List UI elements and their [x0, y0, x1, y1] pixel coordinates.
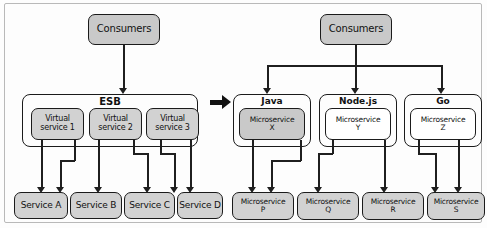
microservice-s[interactable]: Microservice S — [427, 192, 485, 220]
connector-left-consumers-to-esb — [123, 45, 125, 89]
connector-z-to-s — [458, 140, 460, 188]
microservice-p[interactable]: Microservice P — [232, 192, 294, 220]
connector-vs3-out2-v2 — [174, 153, 176, 188]
connector-vs2-out2-h — [133, 153, 148, 155]
connector-vs1-to-service-a — [41, 140, 43, 188]
connector-y-out1-v2 — [318, 153, 320, 188]
microservice-z[interactable]: Microservice Z — [410, 108, 476, 140]
connector-vs3-out2-h — [160, 153, 175, 155]
connector-vs2-out2-v2 — [147, 153, 149, 188]
diagram-canvas: Consumers ESB Virtual service 1 Virtual … — [0, 0, 487, 228]
connector-z-out2-v2 — [435, 153, 437, 188]
connector-y-to-r — [384, 140, 386, 188]
service-c[interactable]: Service C — [124, 192, 175, 219]
connector-vs1-out2-h — [60, 160, 75, 162]
service-a[interactable]: Service A — [14, 192, 68, 219]
connector-z-out2-v1 — [418, 140, 420, 154]
transition-arrow-icon — [210, 96, 232, 110]
left-consumers-box[interactable]: Consumers — [88, 14, 160, 45]
runtime-label-go: Go — [404, 96, 482, 106]
service-b[interactable]: Service B — [70, 192, 122, 219]
esb-label: ESB — [22, 96, 198, 107]
connector-x-to-p — [252, 140, 254, 188]
connector-x-out2-v1 — [300, 140, 302, 161]
connector-vs1-out2-v1 — [74, 140, 76, 161]
microservice-q[interactable]: Microservice Q — [297, 192, 359, 220]
connector-bus-to-go — [441, 65, 443, 89]
runtime-label-java: Java — [233, 96, 311, 106]
connector-right-consumers-stem — [355, 45, 357, 66]
virtual-service-3[interactable]: Virtual service 3 — [146, 108, 199, 140]
connector-x-out2-v2 — [271, 160, 273, 188]
connector-bus-to-node — [355, 65, 357, 89]
connector-y-out1-v1 — [332, 140, 334, 154]
virtual-service-1[interactable]: Virtual service 1 — [31, 108, 84, 140]
connector-vs3-to-service-d — [190, 140, 192, 188]
microservice-r[interactable]: Microservice R — [362, 192, 424, 220]
connector-vs3-out2-v1 — [160, 140, 162, 154]
service-d[interactable]: Service D — [177, 192, 223, 219]
right-consumers-box[interactable]: Consumers — [320, 14, 392, 45]
connector-vs2-out2-v1 — [133, 140, 135, 154]
connector-bus-to-java — [267, 65, 269, 89]
connector-vs1-out2-v2 — [60, 160, 62, 188]
microservice-y[interactable]: Microservice Y — [325, 108, 391, 140]
connector-x-out2-h — [271, 160, 301, 162]
virtual-service-2[interactable]: Virtual service 2 — [89, 108, 142, 140]
connector-y-out1-h — [318, 153, 333, 155]
microservice-x[interactable]: Microservice X — [239, 108, 305, 140]
connector-z-out2-h — [418, 153, 436, 155]
runtime-label-nodejs: Node.js — [319, 96, 397, 106]
connector-vs2-to-service-b — [98, 140, 100, 188]
